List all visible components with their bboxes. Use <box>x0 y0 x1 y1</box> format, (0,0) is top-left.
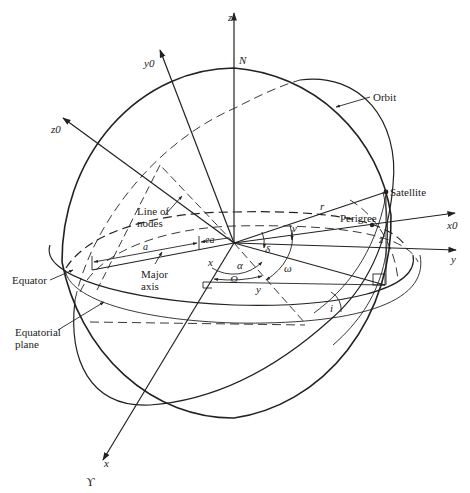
inclination-label: i <box>330 302 333 314</box>
nu-label: ν <box>292 222 297 234</box>
y-axis-label: y <box>450 253 456 265</box>
z-component-label: z <box>378 233 384 245</box>
omega-cap-arc <box>214 276 262 280</box>
satellite-label: Satellite <box>390 186 426 198</box>
line-of-nodes-label-1: Line of <box>137 205 169 217</box>
equatorial-plane-label-1: Equatorial <box>15 326 61 338</box>
y0-axis-label: y0 <box>143 57 155 69</box>
delta-label: δ <box>265 243 271 255</box>
equator-label: Equator <box>12 274 47 286</box>
x0-axis-label: x0 <box>446 219 458 231</box>
z0-axis-label: z0 <box>50 123 61 135</box>
angle-arcs <box>212 225 341 312</box>
vernal-equinox-label: ϒ <box>86 475 95 489</box>
y-component-label: y <box>255 283 261 295</box>
omega-label: ω <box>284 262 292 274</box>
equatorial-plane-label-2: plane <box>15 338 39 350</box>
z-axis-label: z <box>227 11 233 23</box>
x-axis-label: x <box>103 457 109 469</box>
orbit-label: Orbit <box>373 91 396 103</box>
line-of-nodes-label-2: nodes <box>137 217 163 229</box>
projection-to-equator <box>234 243 385 285</box>
celestial-sphere <box>62 68 391 418</box>
r-label: r <box>320 200 325 212</box>
a-label: a <box>143 241 148 252</box>
major-axis-label-2: axis <box>141 280 159 292</box>
major-axis-label-1: Major <box>141 268 168 280</box>
x-component-label: x <box>207 256 213 268</box>
north-label: N <box>238 54 247 66</box>
raan-label: Ω <box>230 273 238 285</box>
ea-label: ea <box>205 234 214 245</box>
line-of-nodes-back <box>160 165 234 243</box>
x-axis <box>103 243 234 460</box>
delta-arc <box>262 232 264 248</box>
perigee-label: Perigree <box>340 212 377 224</box>
orbit-diagram: z N y0 z0 x0 y x ϒ r ν δ α Ω ω i a ea x … <box>0 0 470 493</box>
alpha-label: α <box>237 259 243 271</box>
